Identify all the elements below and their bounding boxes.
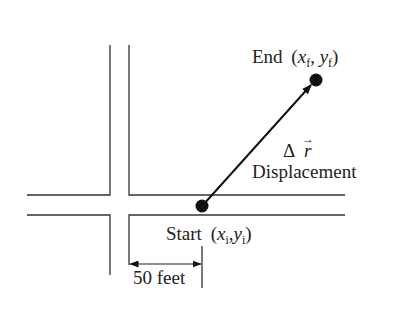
start-point-dot xyxy=(196,200,209,213)
vector-arrow-accent: → xyxy=(302,132,314,146)
end-point-dot xyxy=(310,74,323,87)
street-edge-bottom-left xyxy=(27,215,110,275)
end-label: End (xf, yf) xyxy=(252,46,338,70)
start-label: Start (xi,yi) xyxy=(166,223,252,247)
street-edge-top-left xyxy=(27,45,110,195)
displacement-diagram: End (xf, yf) Δ r → Displacement Start (x… xyxy=(0,0,397,311)
dimension-label: 50 feet xyxy=(133,267,186,288)
displacement-label: Displacement xyxy=(252,161,357,182)
